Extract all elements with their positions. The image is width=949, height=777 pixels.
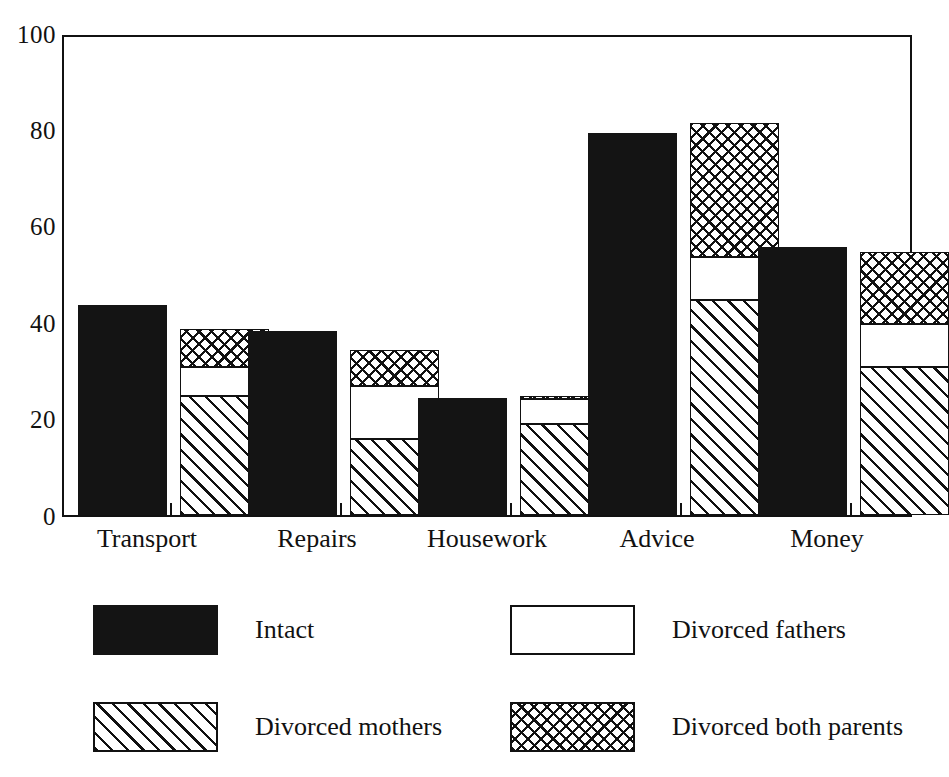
legend-item-intact: Intact <box>93 605 314 655</box>
x-axis-label-housework: Housework <box>402 524 572 554</box>
segment-intact <box>588 133 677 515</box>
x-axis-label-repairs: Repairs <box>232 524 402 554</box>
legend-label-divorced-fathers: Divorced fathers <box>672 615 846 645</box>
y-axis: 100 80 60 40 20 0 <box>0 35 56 517</box>
x-axis-label-advice: Advice <box>572 524 742 554</box>
y-tick-label-100: 100 <box>4 22 56 47</box>
x-axis-label-money: Money <box>742 524 912 554</box>
legend-label-divorced-mothers: Divorced mothers <box>255 712 442 742</box>
legend-swatch-intact-icon <box>93 605 218 655</box>
y-tick-label-0: 0 <box>4 504 56 529</box>
bar-repairs-intact <box>248 331 337 515</box>
bar-transport-intact <box>78 305 167 515</box>
segment-intact <box>78 305 167 515</box>
x-axis-label-transport: Transport <box>62 524 232 554</box>
y-tick-label-40: 40 <box>4 311 56 336</box>
legend-item-divorced-mothers: Divorced mothers <box>93 702 442 752</box>
x-tick-mark-repairs <box>340 503 342 517</box>
segment-intact <box>418 398 507 515</box>
x-tick-mark-money <box>850 503 852 517</box>
segment-intact <box>758 247 847 515</box>
y-tick-label-20: 20 <box>4 407 56 432</box>
legend-swatch-divorced-mothers-icon <box>93 702 218 752</box>
segment-divorced-both-parents <box>860 252 949 324</box>
y-tick-label-60: 60 <box>4 214 56 239</box>
segment-divorced-both-parents <box>350 350 439 386</box>
legend-swatch-divorced-fathers-icon <box>510 605 635 655</box>
segment-divorced-mothers <box>860 367 949 515</box>
legend-item-divorced-both-parents: Divorced both parents <box>510 702 903 752</box>
segment-intact <box>248 331 337 515</box>
y-tick-label-80: 80 <box>4 118 56 143</box>
legend-item-divorced-fathers: Divorced fathers <box>510 605 846 655</box>
segment-divorced-fathers <box>860 324 949 367</box>
chart-legend: Intact Divorced fathers Divorced mothers… <box>0 596 940 777</box>
plot-area <box>62 35 912 517</box>
bar-advice-intact <box>588 133 677 515</box>
segment-divorced-both-parents <box>690 123 779 257</box>
x-tick-mark-transport <box>170 503 172 517</box>
legend-label-intact: Intact <box>255 615 314 645</box>
x-tick-mark-housework <box>510 503 512 517</box>
bar-money-divorced-stack <box>860 252 949 515</box>
legend-label-divorced-both-parents: Divorced both parents <box>672 712 903 742</box>
x-tick-mark-advice <box>680 503 682 517</box>
bar-housework-intact <box>418 398 507 515</box>
legend-swatch-divorced-both-parents-icon <box>510 702 635 752</box>
bar-money-intact <box>758 247 847 515</box>
